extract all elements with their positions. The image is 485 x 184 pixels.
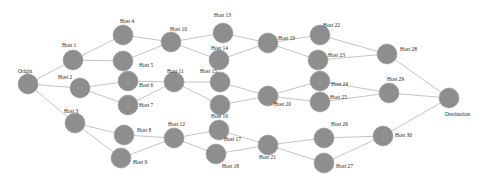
node-label-h12: Host 12 [168, 121, 185, 127]
node-label-h3: Host 3 [64, 108, 79, 114]
node-label-h22: Host 22 [323, 22, 340, 28]
node-label-h18: Host 18 [222, 163, 239, 169]
node-h8 [114, 125, 134, 145]
node-label-h19: Host 19 [278, 35, 295, 41]
node-label-h30: Host 30 [395, 132, 412, 138]
node-h30 [373, 126, 393, 146]
node-label-h29: Host 29 [387, 76, 404, 82]
node-label-origin: Origin [18, 68, 32, 74]
node-h7 [118, 95, 138, 115]
node-label-h2: Host 2 [58, 74, 73, 80]
node-h14 [209, 50, 229, 70]
node-label-h1: Host 1 [62, 42, 77, 48]
node-h4 [113, 25, 133, 45]
node-h26 [314, 128, 334, 148]
node-label-h7: Host 7 [139, 102, 154, 108]
node-h21 [258, 135, 278, 155]
node-label-h27: Host 27 [336, 163, 353, 169]
node-destination [439, 88, 459, 108]
node-label-h24: Host 24 [331, 81, 348, 87]
network-diagram: OriginHost 1Host 2Host 3Host 4Host 5Host… [0, 0, 485, 184]
node-h3 [65, 113, 85, 133]
node-h5 [113, 51, 133, 71]
edge-h30-destination [383, 98, 449, 136]
node-label-h8: Host 8 [137, 127, 152, 133]
node-h6 [118, 71, 138, 91]
node-h11 [164, 72, 184, 92]
node-h24 [310, 71, 330, 91]
node-h19 [258, 33, 278, 53]
node-label-h10: Host 10 [170, 26, 187, 32]
node-h2 [70, 78, 90, 98]
node-h29 [379, 83, 399, 103]
node-h15 [210, 72, 230, 92]
node-label-h15: Host 15 [200, 68, 217, 74]
node-h16 [210, 95, 230, 115]
node-label-h6: Host 6 [139, 82, 154, 88]
node-label-h9: Host 9 [133, 159, 148, 165]
node-h27 [314, 153, 334, 173]
node-h9 [111, 148, 131, 168]
node-label-h26: Host 26 [331, 121, 348, 127]
node-label-h25: Host 25 [330, 94, 347, 100]
node-h1 [63, 50, 83, 70]
node-h28 [377, 44, 397, 64]
node-label-h28: Host 28 [400, 46, 417, 52]
node-h25 [310, 92, 330, 112]
node-h22 [310, 25, 330, 45]
node-label-h20: Host 20 [274, 101, 291, 107]
node-h12 [164, 128, 184, 148]
node-h13 [213, 23, 233, 43]
node-label-h14: Host 14 [211, 45, 228, 51]
node-label-h21: Host 21 [259, 154, 276, 160]
node-h10 [161, 32, 181, 52]
node-label-destination: Destination [445, 111, 470, 117]
node-h18 [206, 144, 226, 164]
node-label-h17: Host 17 [224, 136, 241, 142]
node-origin [18, 74, 38, 94]
node-label-h11: Host 11 [167, 68, 184, 74]
node-label-h4: Host 4 [120, 18, 135, 24]
node-label-h23: Host 23 [328, 52, 345, 58]
node-h23 [308, 50, 328, 70]
node-label-h5: Host 5 [139, 62, 154, 68]
node-label-h13: Host 13 [214, 12, 231, 18]
node-label-h16: Host 16 [211, 113, 228, 119]
